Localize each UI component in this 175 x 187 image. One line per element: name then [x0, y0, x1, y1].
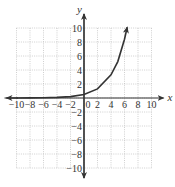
x-tick-label: 10 — [147, 99, 157, 110]
x-tick-label: 0 — [86, 99, 91, 110]
data-curve — [7, 27, 128, 98]
y-tick-label: −6 — [71, 135, 82, 146]
y-tick-label: −2 — [71, 107, 82, 118]
y-tick-label: 6 — [77, 51, 82, 62]
x-tick-label: 2 — [95, 99, 100, 110]
y-tick-label: 10 — [72, 23, 82, 34]
axes — [5, 14, 164, 178]
curve-line — [17, 27, 128, 98]
y-tick-label: −10 — [66, 163, 82, 174]
x-tick-label: 8 — [136, 99, 141, 110]
y-tick-label: −4 — [71, 121, 82, 132]
x-tick-label: −8 — [25, 99, 36, 110]
x-tick-label: −4 — [52, 99, 63, 110]
y-axis-label: y — [76, 3, 82, 15]
y-tick-label: 2 — [77, 79, 82, 90]
x-tick-label: −6 — [38, 99, 49, 110]
y-tick-label: 8 — [77, 37, 82, 48]
x-tick-label: 6 — [122, 99, 127, 110]
x-tick-label: −10 — [9, 99, 25, 110]
x-axis-label: x — [167, 91, 173, 103]
x-tick-label: 4 — [109, 99, 114, 110]
y-tick-label: 4 — [77, 65, 82, 76]
y-tick-label: −8 — [71, 149, 82, 160]
exponential-graph: −10−8−6−4−20246810−10−8−6−4−2246810 x y — [0, 0, 175, 187]
